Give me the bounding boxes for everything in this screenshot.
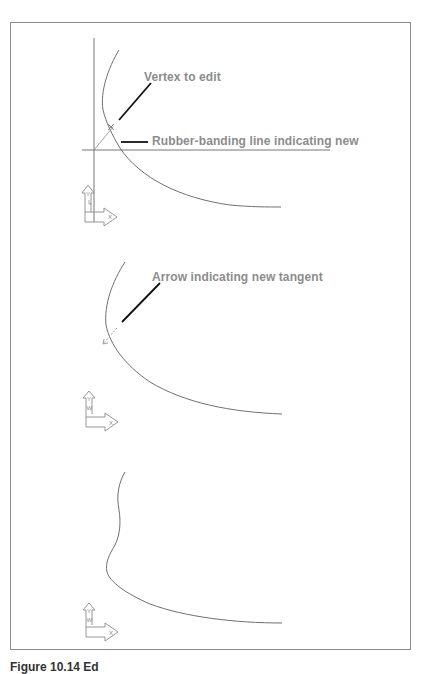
rubber-banding-label: Rubber-banding line indicating new	[152, 134, 359, 148]
svg-text:Y: Y	[87, 608, 91, 614]
svg-text:W: W	[87, 617, 93, 623]
svg-text:X: X	[109, 630, 113, 636]
svg-text:Y: Y	[87, 396, 91, 402]
tangent-arrow-icon[interactable]	[103, 328, 117, 344]
svg-text:W: W	[87, 405, 93, 411]
ucs-icon: Y W X	[83, 603, 118, 641]
spline-curve	[106, 262, 282, 414]
panel-2: Y W X	[83, 262, 282, 431]
edited-spline-curve	[106, 472, 282, 623]
tangent-arrow-label: Arrow indicating new tangent	[152, 270, 323, 284]
vertex-to-edit-label: Vertex to edit	[144, 70, 221, 84]
ucs-icon: Y X	[82, 185, 117, 226]
svg-text:X: X	[109, 420, 113, 426]
rubber-band-line	[94, 127, 113, 150]
vertex-leader-line	[119, 83, 151, 120]
svg-text:Y: Y	[86, 191, 90, 197]
ucs-icon: Y W X	[83, 391, 118, 431]
figure-caption: Figure 10.14 Ed	[10, 660, 99, 674]
panel-3: Y W X	[83, 472, 282, 641]
svg-text:X: X	[108, 214, 112, 220]
panel-1: Y X	[82, 38, 330, 226]
tangent-leader-line	[122, 283, 160, 322]
